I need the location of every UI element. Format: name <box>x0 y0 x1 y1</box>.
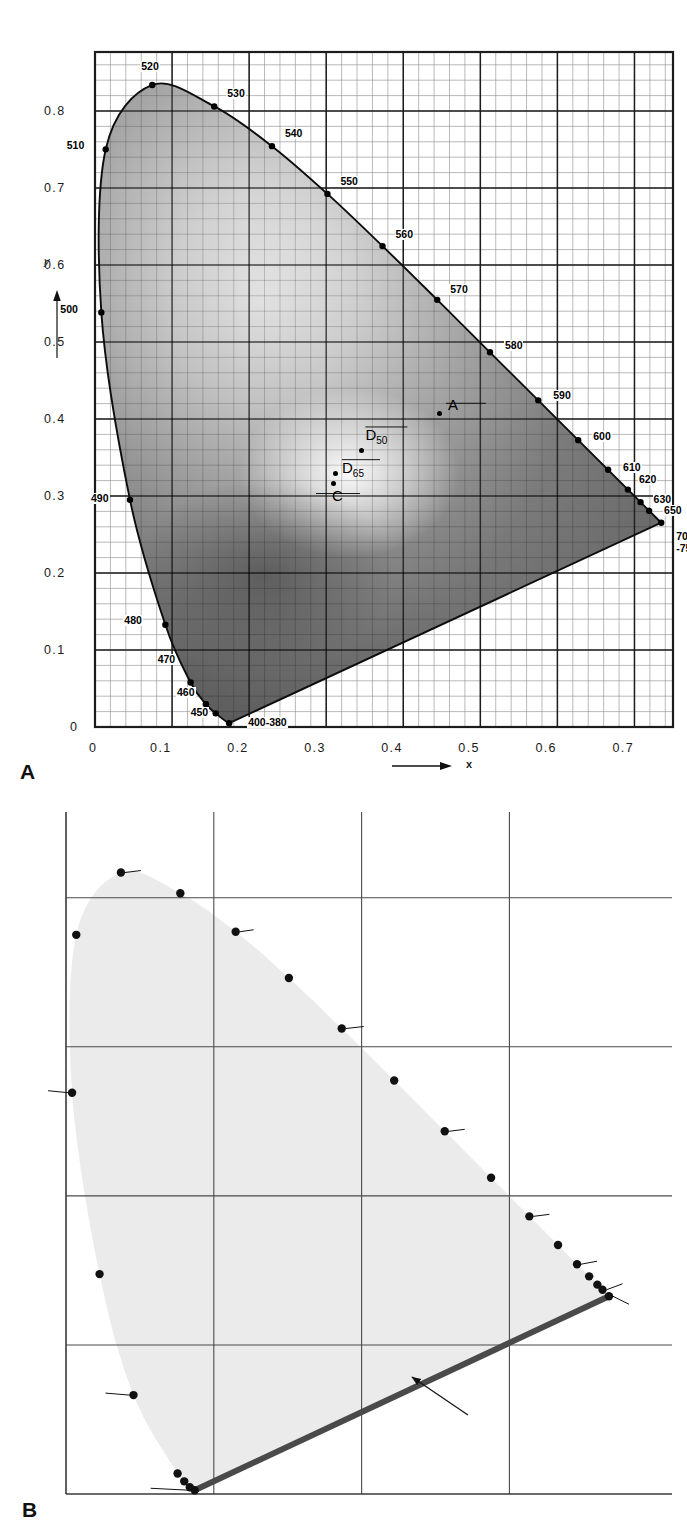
x-tick-0p1: 0.1 <box>150 741 172 755</box>
wavelength-label-450: 450 <box>190 707 210 718</box>
wavelength-label-520: 520 <box>140 61 160 72</box>
y-axis-arrow-a <box>46 278 68 362</box>
panel-a-figure: 00.10.20.30.40.50.60.70.8 00.10.20.30.40… <box>0 0 687 790</box>
wavelength-label-510: 510 <box>66 140 86 151</box>
wavelength-label-540: 540 <box>284 128 304 139</box>
panel-b-plot <box>0 790 687 1529</box>
purple-line-annotation-arrow <box>412 1377 468 1415</box>
white-point-label-C: C <box>332 488 343 503</box>
y-tick-0p1: 0.1 <box>44 643 66 657</box>
y-tick-0p2: 0.2 <box>44 566 66 580</box>
x-tick-0p4: 0.4 <box>381 741 403 755</box>
white-point-label-D50: D50 <box>365 427 387 448</box>
x-tick-0: 0 <box>89 741 97 755</box>
panel-b-figure: 380nm480500520540560580600620650770 Purp… <box>0 790 687 1529</box>
white-point-label-D65: D65 <box>342 460 364 481</box>
gamut-fill-b <box>70 871 609 1490</box>
wavelength-label-530: 530 <box>226 88 246 99</box>
wavelength-label-650: 650 <box>663 505 683 516</box>
y-axis-label-a: y <box>44 255 50 267</box>
wavelength-label-400-380: 400-380 <box>247 717 288 728</box>
wavelength-label-620: 620 <box>638 474 658 485</box>
wavelength-label-460: 460 <box>176 687 196 698</box>
x-axis-label-a: x <box>466 758 472 770</box>
y-tick-0: 0 <box>70 720 78 734</box>
panel-b-letter: B <box>22 1498 37 1522</box>
panel-a-plot <box>0 0 687 790</box>
wavelength-label-470: 470 <box>157 654 177 665</box>
wavelength-label-490: 490 <box>90 493 110 504</box>
wavelength-label-580: 580 <box>504 340 524 351</box>
wavelength-label--750: -750 <box>675 543 687 554</box>
x-tick-0p5: 0.5 <box>458 741 480 755</box>
white-point-label-A: A <box>448 397 458 412</box>
wavelength-label-550: 550 <box>339 176 359 187</box>
chromaticity-gradient <box>0 0 687 790</box>
x-tick-0p3: 0.3 <box>304 741 326 755</box>
x-axis-arrow-a <box>390 757 462 775</box>
x-tick-0p2: 0.2 <box>227 741 249 755</box>
wavelength-label-570: 570 <box>449 284 469 295</box>
x-tick-0p7: 0.7 <box>612 741 634 755</box>
y-tick-0p4: 0.4 <box>44 412 66 426</box>
wavelength-label-560: 560 <box>395 229 415 240</box>
wavelength-label-610: 610 <box>622 462 642 473</box>
wavelength-label-590: 590 <box>552 390 572 401</box>
x-tick-0p6: 0.6 <box>535 741 557 755</box>
wavelength-label-480: 480 <box>123 615 143 626</box>
wavelength-label-700: 700 <box>675 531 687 542</box>
y-tick-0p7: 0.7 <box>44 181 66 195</box>
wavelength-label-600: 600 <box>592 431 612 442</box>
y-tick-0p8: 0.8 <box>44 104 66 118</box>
y-tick-0p3: 0.3 <box>44 489 66 503</box>
panel-a-letter: A <box>20 760 35 784</box>
